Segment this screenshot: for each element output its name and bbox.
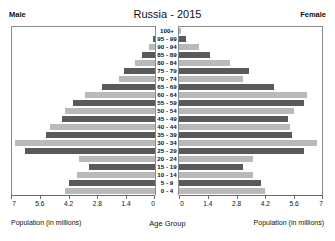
age-group-label: 80 - 84 [156,58,178,66]
axis-tick-label: 0 [180,200,184,207]
male-bar-rows [12,27,155,195]
bar-male [15,140,155,146]
bar-row [12,27,155,35]
bar-male [142,52,155,58]
age-group-axis: 100+95 - 9990 - 9485 - 8980 - 8475 - 797… [155,26,179,195]
age-group-label: 90 - 94 [156,42,178,50]
age-group-label: 25 - 29 [156,147,178,155]
axis-tick-label: 4.2 [261,200,270,207]
bar-male [65,188,156,194]
bar-row [12,99,155,107]
axis-tick-label: 7 [319,200,323,207]
bar-row [179,147,322,155]
bar-row [12,83,155,91]
bar-female [179,60,230,66]
bar-male [85,92,155,98]
axis-tick-label: 0 [151,200,155,207]
bar-row [179,43,322,51]
bar-male [119,76,155,82]
female-axis-ticks: 01.42.84.25.67 [179,195,323,213]
bar-row [12,51,155,59]
axis-tick [322,195,323,199]
bar-row [12,171,155,179]
bar-female [179,44,199,50]
bar-male [69,180,155,186]
age-group-label: 35 - 39 [156,131,178,139]
bar-row [179,187,322,195]
age-group-label: 95 - 99 [156,34,178,42]
age-group-label: 70 - 74 [156,74,178,82]
axis-tick-label: 4.2 [64,200,73,207]
age-group-label: 5 - 9 [156,179,178,187]
bar-row [179,115,322,123]
bar-row [179,83,322,91]
female-bar-rows [179,27,322,195]
bar-male [79,156,155,162]
age-group-label: 45 - 49 [156,115,178,123]
bar-row [12,131,155,139]
bar-female [179,52,210,58]
axis-tick-label: 2.8 [93,200,102,207]
axis-tick [237,195,238,199]
bar-female [179,68,249,74]
bar-row [12,187,155,195]
age-group-label: 0 - 4 [156,187,178,195]
bar-row [12,139,155,147]
age-group-label: 20 - 24 [156,155,178,163]
bar-row [179,171,322,179]
age-group-label: 50 - 54 [156,106,178,114]
bar-female [179,132,292,138]
bar-row [179,67,322,75]
bar-row [179,131,322,139]
bar-male [46,132,155,138]
bar-row [179,75,322,83]
bar-female [179,172,253,178]
population-pyramid-chart: Male Russia - 2015 Female 100+95 - 9990 … [0,0,335,241]
bar-row [179,107,322,115]
bar-female [179,188,265,194]
age-group-label: 60 - 64 [156,90,178,98]
bar-female [179,92,307,98]
bar-male [50,124,155,130]
bar-male [135,60,155,66]
bar-female [179,36,186,42]
bar-male [89,164,155,170]
bar-row [12,147,155,155]
bar-row [12,59,155,67]
axis-tick-label: 1.4 [122,200,131,207]
bar-female [179,180,261,186]
bar-row [12,123,155,131]
page-title: Russia - 2015 [0,7,335,21]
axis-tick [179,195,180,199]
axis-tick-label: 1.4 [203,200,212,207]
axis-tick [11,195,12,199]
axis-tick [40,195,41,199]
bar-male [77,172,155,178]
bar-row [12,107,155,115]
bar-row [179,139,322,147]
bar-male [73,100,155,106]
bar-row [179,51,322,59]
age-group-label: 15 - 19 [156,163,178,171]
axis-tick-label: 2.8 [232,200,241,207]
bar-male [124,68,155,74]
age-group-label: 55 - 59 [156,98,178,106]
age-group-label: 75 - 79 [156,66,178,74]
bar-female [179,148,304,154]
bar-female [179,140,317,146]
bar-row [179,27,322,35]
bar-row [179,163,322,171]
bar-female [179,84,274,90]
bar-row [12,163,155,171]
axis-tick [97,195,98,199]
bar-row [179,179,322,187]
bar-row [12,75,155,83]
female-side-label: Female [300,9,326,20]
axis-tick [69,195,70,199]
age-group-label: 85 - 89 [156,50,178,58]
axis-tick-label: 5.6 [35,200,44,207]
axis-tick [154,195,155,199]
bar-female [179,116,288,122]
bar-male [102,84,155,90]
male-axis-ticks: 75.64.22.81.40 [11,195,155,213]
